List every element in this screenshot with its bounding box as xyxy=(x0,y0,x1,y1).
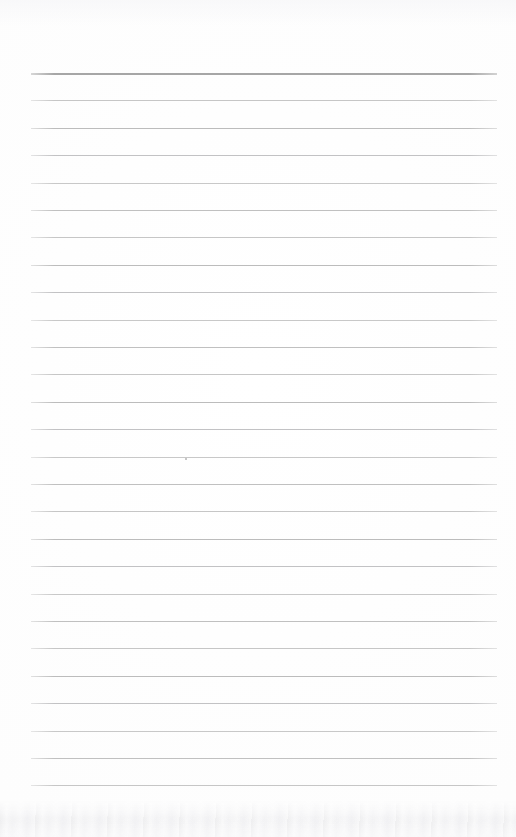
scanned-page xyxy=(0,0,516,837)
page-text-content xyxy=(31,73,497,787)
